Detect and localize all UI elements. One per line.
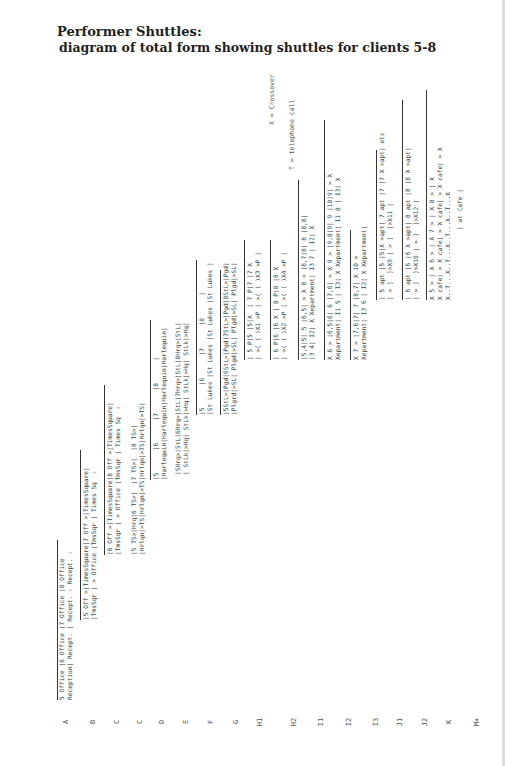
row-h2-rule [270, 240, 271, 360]
row-j1-line-1: | 5 apt |5 |5|X >apt| 7 apt |7 |7 X >apt… [378, 132, 386, 300]
row-k-line-1: X 5 > | X 6 > | X 7 > | X 8 > | X [428, 177, 436, 300]
legend-crossover: X = Crossover [268, 74, 276, 125]
row-h2-line-2: | >( ( )X2 >P | >( ( )X4 >P | [280, 252, 288, 360]
row-i3-line-1: X 7 > |7,6|7| 7 |8,7| X 10 > [352, 256, 360, 360]
row-f-line-1: |5 |6 |7 |8 | [198, 292, 206, 415]
row-label-h1: H1 [256, 718, 264, 726]
row-m-line-1: | at Cafe | [456, 189, 464, 230]
row-b-line-2: |TmsSqr | > Office |TmsSqr | Times Sq : [90, 471, 98, 620]
row-label-i2: I2 [345, 718, 353, 726]
row-a-line-2: Reception| Recept. | Recept. : Recept. : [66, 551, 74, 700]
row-g-line-1: |5StL>|Pgd|6StL>|Pgd|7StL>|Pgd|8StL>|Pgd… [222, 262, 230, 415]
row-label-c2: C [136, 720, 144, 724]
row-i2-rule [324, 120, 325, 360]
row-h2-line-1: | 6 P|6 |6 X | 8 P|8 |8 X [272, 267, 280, 360]
row-label-m: M+ [473, 718, 481, 726]
row-h1-line-1: | 5 P|5 |5|X | 7 P|7 |7 X [246, 263, 254, 360]
row-label-b: B [89, 720, 97, 724]
row-k-rule [426, 90, 427, 300]
row-a-rule [57, 540, 58, 700]
title-line-1: Performer Shuttles: [57, 24, 436, 40]
row-i2-line-1: X 6 > |6,5|6| 6 |7,6| > X 9 > |9,8|9| 9 … [326, 174, 334, 360]
row-label-j2: J2 [421, 718, 429, 726]
row-d-line-2: |Harlequin|Harlequin|Harlequin|Harlequin… [160, 327, 168, 480]
row-i3-line-2: Xepartment| I3 6 | I2| X Xepartment| [360, 226, 368, 360]
row-h1-line-2: | >( ( )X1 >P | >( ( )X3 >P | [254, 252, 262, 360]
row-label-c1: C [113, 720, 121, 724]
row-label-i3: I3 [372, 718, 380, 726]
row-label-f: F [207, 720, 215, 724]
row-c2-line-2: |Hrlqn|>TS|Hrlqn|>TS|Hrlqn|>TS|Hrlqn|>TS… [138, 402, 146, 555]
row-f-line-2: |St Lukes |St Lukes |St Lukes |St Lukes … [206, 262, 214, 415]
row-g-line-2: |Plgrd|>SL| Plgd|>SL| Plgd|>SL| Plgd|>SL… [230, 262, 238, 415]
row-h1-rule [244, 240, 245, 360]
row-label-i1: I1 [317, 718, 325, 726]
row-i2-line-2: Xepartment| I1 5 | I3| X Xepartment| I1 … [334, 177, 342, 360]
row-label-k: K [445, 720, 453, 724]
row-j1-rule [376, 150, 377, 300]
row-e-line-1: |SHrq>|StL|6Hrq>|StL|7Hrq>|StL|8Hrq>|StL… [174, 322, 182, 475]
row-label-d: D [158, 720, 166, 724]
row-label-h2: H2 [290, 718, 298, 726]
row-f-rule [196, 260, 197, 415]
row-j2-line-2: | > ] ]>X10 | > ] ]>X12 | [412, 199, 420, 300]
row-c1-rule [104, 385, 105, 555]
row-k-line-2: X cafe| > X cafe| > X cafe| > X cafe| > … [436, 147, 444, 300]
row-i3-rule [350, 230, 351, 360]
row-c1-line-1: |6 Off >|TimesSquare|8 Off >|TimesSquare… [106, 402, 114, 555]
legend-telephone: T = telephone call [288, 100, 296, 170]
row-i1-rule [298, 180, 299, 360]
row-g-rule [220, 270, 221, 415]
row-label-g: G [232, 720, 240, 724]
row-label-j1: J1 [396, 718, 404, 726]
row-j1-line-2: | > ] ]>X9 | > ] ]>X11 | [386, 203, 394, 300]
row-c2-line-1: |5 TS>|Hrq|6 TS>| |7 TS>| |8 TS>| [130, 425, 138, 555]
row-b-line-1: |5 Off >|TimesSquare|7 Off >|TimesSquare… [82, 467, 90, 620]
row-label-a: A [62, 720, 70, 724]
row-d-line-1: |5 |6 |7 |8 | [152, 357, 160, 480]
row-j2-line-1: | 6 apt |6 |6 X >apt| 8 apt |8 |8 X >apt… [404, 147, 412, 300]
row-i1-line-2: |3 4| I2| X Xepartment| I3 7 | I2| X [308, 226, 316, 360]
row-j2-rule [402, 100, 403, 300]
row-a-line-1: 5 Office |6 Office |7 Office |8 Office [58, 558, 66, 700]
title-line-2: diagram of total form showing shuttles f… [59, 40, 436, 56]
row-d-rule [150, 320, 151, 480]
row-label-e: E [182, 720, 190, 724]
row-e-line-2: | StLk|>Hq| StLk|>Hq| StLk|>Hq| StLk|>Hq… [182, 322, 190, 475]
row-k-line-3: X..T...X..T...X..T...X..T...X [444, 192, 452, 300]
row-b-rule [80, 450, 81, 620]
row-i1-line-1: |5,4|5| 5 |6,5| > X 8 > |8,7|8| 8 |8,8| [300, 215, 308, 360]
row-c1-line-2: |TmsSqr | > Office |TmsSqr | Times Sq : [114, 406, 122, 555]
page-title: Performer Shuttles: diagram of total for… [57, 24, 436, 56]
